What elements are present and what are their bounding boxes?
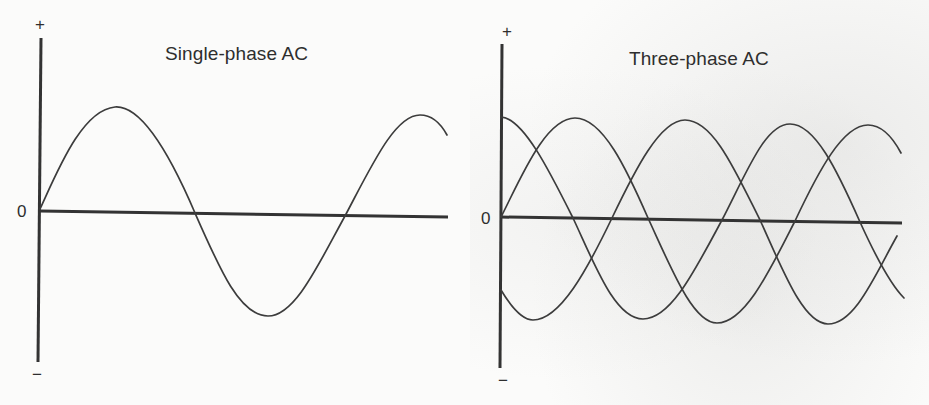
three-phase-plot [465, 0, 929, 405]
zero-axis [40, 211, 448, 217]
three-phase-panel: Three-phase AC + − 0 [465, 0, 929, 405]
zero-axis [500, 217, 902, 223]
single-phase-panel: Single-phase AC + − 0 [0, 0, 465, 405]
single-phase-plot [0, 0, 465, 405]
y-axis [38, 38, 41, 362]
y-axis [500, 44, 502, 368]
